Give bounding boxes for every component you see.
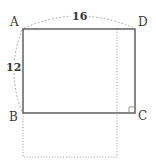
geometry-canvas (0, 0, 156, 165)
rectangle-abcd (23, 29, 135, 113)
vertex-label-b: B (9, 111, 18, 123)
vertex-label-c: C (138, 110, 147, 122)
measure-label-top: 16 (71, 11, 88, 22)
measure-label-left: 12 (5, 62, 22, 73)
vertex-label-a: A (10, 16, 19, 28)
right-angle-marker-c (129, 107, 135, 113)
vertex-label-d: D (138, 16, 148, 28)
dotted-square-below (23, 113, 117, 157)
geometry-figure: A D B C 16 12 (0, 0, 156, 165)
